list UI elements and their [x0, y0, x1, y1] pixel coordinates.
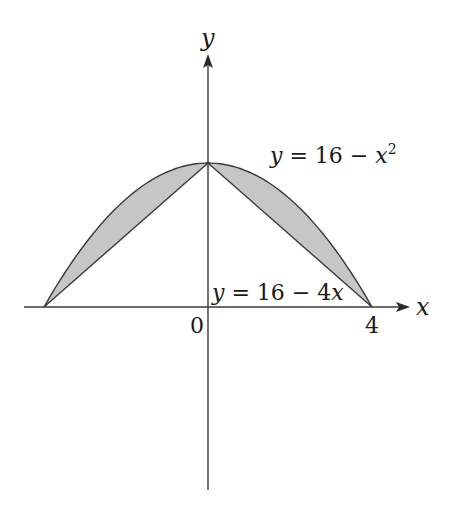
parabola-equation-label: y = 16 − x2: [269, 141, 397, 168]
diagram-canvas: y x 0 4 y = 16 − x2 y = 16 − 4x: [0, 0, 451, 515]
left-shaded-region: [44, 163, 208, 307]
x-axis-label: x: [416, 293, 430, 321]
y-axis-label: y: [200, 24, 215, 52]
parabola-exponent: 2: [388, 141, 397, 157]
origin-label: 0: [190, 313, 204, 338]
x-tick-label-4: 4: [365, 313, 379, 338]
line-equation-label: y = 16 − 4x: [211, 280, 344, 305]
